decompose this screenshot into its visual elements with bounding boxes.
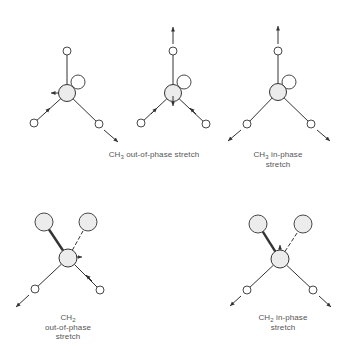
label-text: CH	[258, 313, 270, 322]
displacement-arrow-icon	[228, 130, 241, 141]
displacement-arrow-icon	[319, 296, 331, 307]
hydrogen-atom-circle	[169, 47, 177, 55]
label-ch2-out-of-phase: CH2 out-of-phase stretch	[28, 313, 108, 342]
molecule-ch3-oop-a	[30, 47, 118, 142]
label-text: stretch	[236, 160, 320, 170]
heavy-atom-circle	[35, 213, 53, 231]
displacement-arrow-icon	[190, 108, 196, 114]
hydrogen-atom-circle	[307, 120, 315, 128]
molecule-ch2-ip	[230, 215, 331, 307]
displacement-arrow-icon	[317, 130, 330, 141]
label-text: out-of-phase	[28, 323, 108, 333]
hydrogen-atom-circle	[202, 120, 210, 128]
displacement-arrow-icon	[44, 108, 50, 114]
dashed-bond	[285, 232, 298, 252]
label-text: CH	[60, 313, 72, 322]
bond-c-h	[74, 264, 97, 287]
bond-c-h	[250, 98, 272, 121]
molecule-ch3-oop-b	[137, 27, 210, 128]
label-text: stretch	[240, 323, 326, 333]
bond-c-h	[287, 265, 311, 287]
bond-c-h	[284, 98, 308, 121]
displacement-arrow-icon	[104, 130, 118, 142]
bond-c-h	[250, 265, 274, 287]
wedge-bond	[263, 232, 275, 252]
displacement-arrow-icon	[86, 275, 92, 281]
vibration-diagram-canvas	[0, 0, 356, 357]
displacement-arrow-icon	[16, 295, 29, 307]
bond-c-h	[38, 264, 62, 286]
label-text: out-of-phase stretch	[124, 150, 199, 159]
label-text: CH	[253, 150, 265, 159]
heavy-atom-circle	[249, 215, 267, 233]
hydrogen-atom-circle	[309, 286, 317, 294]
wedge-bond	[49, 229, 63, 250]
carbon-atom-circle	[59, 249, 77, 267]
hydrogen-atom-circle	[95, 120, 103, 128]
bond-c-h	[179, 99, 203, 121]
displacement-arrow-icon	[151, 108, 157, 114]
carbon-atom-circle	[59, 85, 76, 102]
label-text: CH	[109, 150, 121, 159]
hydrogen-atom-circle	[96, 286, 104, 294]
dashed-bond	[72, 230, 83, 250]
hydrogen-atom-circle	[243, 286, 251, 294]
heavy-atom-circle	[294, 215, 312, 233]
hydrogen-atom-circle	[63, 47, 71, 55]
hydrogen-atom-circle	[243, 120, 251, 128]
hydrogen-atom-circle	[274, 47, 282, 55]
bond-c-h	[73, 99, 96, 121]
heavy-atom-circle	[79, 213, 97, 231]
label-text: in-phase	[274, 313, 308, 322]
displacement-arrow-icon	[230, 296, 241, 306]
label-ch3-in-phase: CH3 in-phase stretch	[236, 150, 320, 169]
molecule-ch2-oop	[16, 213, 104, 307]
label-text: in-phase	[269, 150, 303, 159]
hydrogen-atom-circle	[30, 119, 38, 127]
label-text: stretch	[28, 332, 108, 342]
hydrogen-atom-circle	[31, 285, 39, 293]
carbon-atom-circle	[270, 84, 287, 101]
molecule-ch3-ip	[228, 26, 330, 141]
label-ch3-out-of-phase: CH3 out-of-phase stretch	[74, 150, 234, 160]
carbon-atom-circle	[271, 250, 289, 268]
label-ch2-in-phase: CH2 in-phase stretch	[240, 313, 326, 332]
hydrogen-atom-circle	[137, 119, 145, 127]
